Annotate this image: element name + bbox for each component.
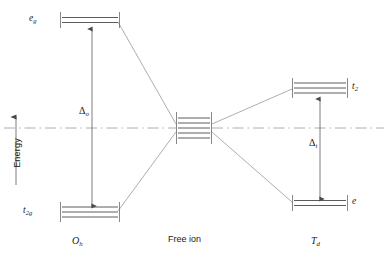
group-label-oh: Oh <box>72 236 83 246</box>
level-label-eg: eg <box>29 14 37 24</box>
crystal-field-splitting-diagram: Energy eg t2g Δo Oh Free ion t2 e Δt Td <box>0 0 388 260</box>
level-t2g <box>61 202 120 222</box>
level-free-ion <box>177 112 212 144</box>
level-label-e: e <box>352 197 356 207</box>
delta-o-label: Δo <box>79 106 89 116</box>
energy-axis-label: Energy <box>12 123 22 183</box>
level-t2 <box>293 78 348 98</box>
level-label-t2g: t2g <box>23 206 32 216</box>
diagram-canvas <box>0 0 388 260</box>
level-eg <box>61 12 120 28</box>
correlation-lines-oh <box>118 22 176 211</box>
group-label-td: Td <box>311 236 320 246</box>
level-label-t2: t2 <box>352 82 358 92</box>
center-label-free-ion: Free ion <box>168 235 201 244</box>
correlation-lines-td <box>212 89 292 202</box>
delta-t-label: Δt <box>309 138 317 148</box>
